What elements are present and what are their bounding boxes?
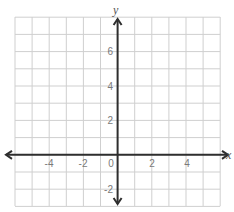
y-axis: [114, 19, 122, 204]
x-axis-label: x: [225, 148, 232, 162]
x-tick-label: 2: [149, 158, 155, 169]
y-tick-label: 2: [107, 115, 113, 126]
x-tick-label: -4: [45, 158, 54, 169]
y-tick-label: 4: [107, 81, 113, 92]
y-tick-label: 6: [107, 46, 113, 57]
x-tick-label: 0: [108, 158, 114, 169]
coordinate-plane: y x -4 -2 0 2 4 6 4 2 -2: [0, 0, 234, 212]
x-tick-label: -2: [79, 158, 88, 169]
x-tick-label: 4: [184, 158, 190, 169]
y-axis-label: y: [112, 3, 119, 17]
y-tick-label: -2: [104, 184, 113, 195]
